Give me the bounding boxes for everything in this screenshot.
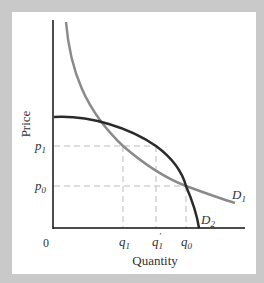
- origin-label: 0: [43, 236, 49, 250]
- y-tick-p1: p1: [34, 138, 46, 155]
- x-axis-title: Quantity: [132, 253, 178, 268]
- y-axis-title: Price: [18, 110, 33, 137]
- x-tick-q1: q1: [119, 234, 130, 251]
- x-tick-q1-prime: q1′: [152, 231, 163, 251]
- label-d1: D1: [231, 187, 246, 204]
- demand-chart: p1 p0 0 q1 q1′ q0 D1 D2 Quantity Price: [0, 0, 264, 283]
- demand-curve-d2: [54, 117, 199, 228]
- guide-lines: [54, 146, 186, 228]
- label-d2: D2: [200, 212, 215, 229]
- y-tick-p0: p0: [34, 178, 47, 195]
- demand-curve-d1: [66, 22, 235, 203]
- x-tick-q0: q0: [181, 234, 193, 251]
